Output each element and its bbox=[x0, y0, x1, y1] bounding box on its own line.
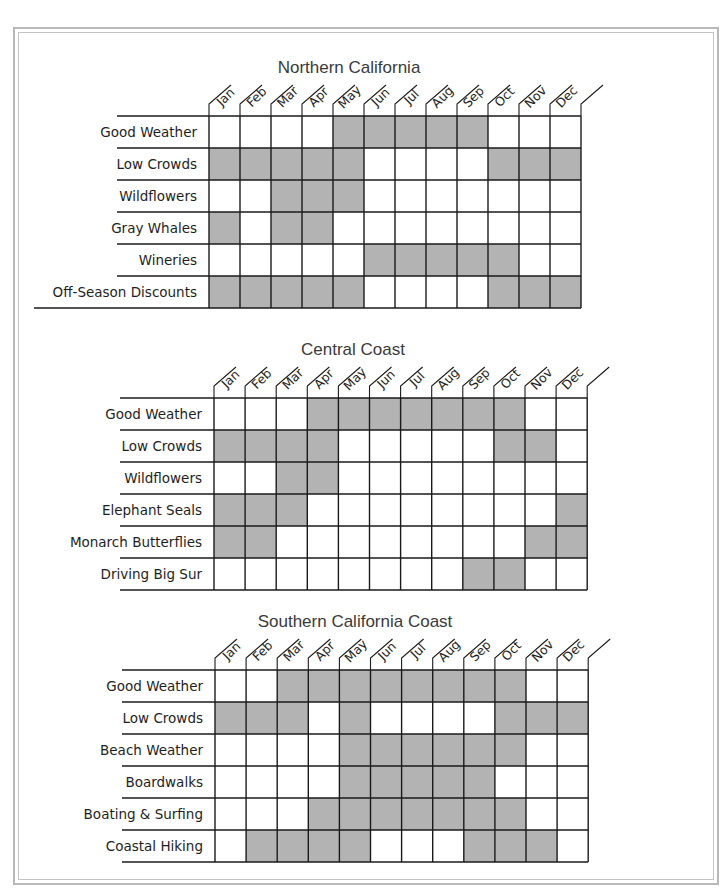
cell-may-inactive bbox=[338, 526, 369, 558]
row-label: Monarch Butterflies bbox=[70, 534, 202, 550]
cell-mar-inactive bbox=[277, 734, 308, 766]
month-label-jul: Jul bbox=[407, 640, 429, 662]
cell-jul-active bbox=[401, 398, 432, 430]
cell-feb-inactive bbox=[240, 180, 271, 212]
month-divider bbox=[587, 367, 609, 398]
cell-apr-inactive bbox=[307, 526, 338, 558]
cell-oct-inactive bbox=[488, 116, 519, 148]
cell-jul-inactive bbox=[402, 702, 433, 734]
cell-nov-active bbox=[526, 702, 557, 734]
cell-jun-inactive bbox=[370, 462, 401, 494]
cell-feb-active bbox=[246, 830, 277, 862]
cell-oct-active bbox=[495, 702, 526, 734]
table-row: Low Crowds bbox=[123, 702, 589, 734]
cell-jan-inactive bbox=[215, 670, 246, 702]
cell-oct-active bbox=[488, 244, 519, 276]
cell-jan-active bbox=[214, 430, 245, 462]
cell-may-active bbox=[339, 766, 370, 798]
cell-oct-active bbox=[488, 276, 519, 308]
cell-feb-active bbox=[245, 526, 276, 558]
cell-may-active bbox=[333, 148, 364, 180]
month-header: JanFebMarAprMayJunJulAugSepOctNovDec bbox=[209, 82, 603, 116]
cell-jan-inactive bbox=[215, 734, 246, 766]
table-row: Good Weather bbox=[105, 398, 587, 430]
cell-jun-inactive bbox=[370, 494, 401, 526]
row-label: Wildflowers bbox=[124, 470, 202, 486]
cell-oct-active bbox=[495, 670, 526, 702]
cell-feb-inactive bbox=[240, 212, 271, 244]
cell-oct-inactive bbox=[494, 526, 525, 558]
cell-jul-inactive bbox=[401, 494, 432, 526]
month-label-mar: Mar bbox=[274, 83, 302, 111]
cell-sep-active bbox=[457, 244, 488, 276]
cell-jun-inactive bbox=[364, 148, 395, 180]
row-label: Good Weather bbox=[105, 406, 202, 422]
cell-feb-inactive bbox=[246, 766, 277, 798]
row-label: Elephant Seals bbox=[102, 502, 202, 518]
month-divider bbox=[581, 85, 603, 116]
cell-jun-inactive bbox=[370, 558, 401, 590]
cell-dec-inactive bbox=[550, 116, 581, 148]
cell-jul-active bbox=[402, 670, 433, 702]
cell-may-inactive bbox=[333, 212, 364, 244]
table-row: Coastal Hiking bbox=[106, 830, 588, 862]
cell-dec-inactive bbox=[557, 766, 588, 798]
cell-may-active bbox=[333, 116, 364, 148]
cell-apr-inactive bbox=[302, 116, 333, 148]
cell-dec-active bbox=[550, 148, 581, 180]
cell-jul-active bbox=[402, 734, 433, 766]
cell-mar-active bbox=[271, 180, 302, 212]
cell-oct-inactive bbox=[488, 212, 519, 244]
cell-aug-inactive bbox=[432, 462, 463, 494]
cell-dec-inactive bbox=[556, 398, 587, 430]
section-central-coast: Central CoastGood WeatherLow CrowdsWildf… bbox=[70, 340, 609, 590]
cell-jun-active bbox=[371, 670, 402, 702]
cell-jun-active bbox=[371, 734, 402, 766]
cell-may-active bbox=[339, 702, 370, 734]
table-row: Wildflowers bbox=[124, 462, 587, 494]
cell-oct-active bbox=[494, 398, 525, 430]
row-label: Coastal Hiking bbox=[106, 838, 203, 854]
row-label: Good Weather bbox=[106, 678, 203, 694]
table-row: Wineries bbox=[139, 244, 581, 276]
cell-apr-inactive bbox=[307, 558, 338, 590]
cell-sep-active bbox=[457, 116, 488, 148]
month-label-may: May bbox=[340, 364, 369, 393]
cell-apr-inactive bbox=[308, 734, 339, 766]
cell-dec-inactive bbox=[557, 734, 588, 766]
cell-sep-inactive bbox=[463, 526, 494, 558]
cell-jul-inactive bbox=[395, 212, 426, 244]
cell-jan-inactive bbox=[214, 398, 245, 430]
cell-feb-inactive bbox=[245, 558, 276, 590]
month-label-apr: Apr bbox=[312, 637, 339, 664]
cell-jul-inactive bbox=[402, 830, 433, 862]
cell-jun-inactive bbox=[364, 212, 395, 244]
cell-nov-inactive bbox=[526, 798, 557, 830]
cell-nov-inactive bbox=[526, 670, 557, 702]
cell-aug-inactive bbox=[426, 180, 457, 212]
cell-mar-active bbox=[276, 494, 307, 526]
cell-mar-inactive bbox=[277, 798, 308, 830]
section-title: Northern California bbox=[278, 58, 421, 77]
row-label: Wineries bbox=[139, 252, 197, 268]
month-label-sep: Sep bbox=[460, 83, 487, 110]
month-label-jul: Jul bbox=[406, 368, 428, 390]
table-row: Low Crowds bbox=[122, 430, 588, 462]
cell-jul-inactive bbox=[395, 276, 426, 308]
cell-nov-inactive bbox=[526, 766, 557, 798]
cell-mar-inactive bbox=[271, 116, 302, 148]
cell-apr-active bbox=[308, 670, 339, 702]
cell-sep-active bbox=[463, 558, 494, 590]
month-label-aug: Aug bbox=[434, 365, 462, 393]
cell-mar-inactive bbox=[276, 398, 307, 430]
cell-oct-active bbox=[494, 558, 525, 590]
cell-feb-inactive bbox=[246, 798, 277, 830]
month-label-oct: Oct bbox=[491, 84, 517, 110]
cell-feb-inactive bbox=[245, 398, 276, 430]
cell-apr-active bbox=[308, 830, 339, 862]
cell-mar-inactive bbox=[271, 244, 302, 276]
table-row: Wildflowers bbox=[119, 180, 581, 212]
cell-sep-inactive bbox=[463, 494, 494, 526]
cell-jun-inactive bbox=[370, 526, 401, 558]
cell-apr-active bbox=[307, 430, 338, 462]
